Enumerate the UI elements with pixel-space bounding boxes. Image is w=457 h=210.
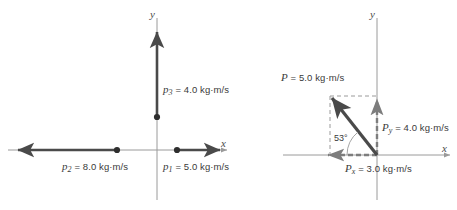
- Py-value: = 4.0 kg·m/s: [392, 122, 448, 133]
- left-y-axis-label: y: [150, 8, 155, 20]
- angle-label: 53°: [334, 133, 348, 143]
- label-p2: p2 = 8.0 kg·m/s: [62, 160, 128, 174]
- left-x-axis-label: x: [221, 137, 226, 149]
- vector-p1: [174, 147, 220, 153]
- Py-symbol: P: [382, 121, 389, 133]
- Px-symbol: P: [345, 162, 352, 174]
- physics-vector-figure: y x p3 = 4.0 kg·m/s p2 = 8.0 kg·m/s p1 =…: [0, 0, 457, 210]
- label-P: P = 5.0 kg·m/s: [281, 71, 344, 83]
- label-p3: p3 = 4.0 kg·m/s: [163, 83, 229, 97]
- vector-P: [332, 98, 377, 155]
- P-symbol: P: [281, 71, 288, 83]
- vector-p2: [18, 147, 120, 153]
- p2-value: = 8.0 kg·m/s: [72, 161, 128, 172]
- angle-arc-53: [347, 132, 358, 155]
- P-value: = 5.0 kg·m/s: [288, 72, 344, 83]
- vector-p3: [154, 32, 160, 120]
- label-p1: p1 = 5.0 kg·m/s: [163, 160, 229, 174]
- label-Py: Py = 4.0 kg·m/s: [382, 121, 449, 135]
- label-Px: Px = 3.0 kg·m/s: [345, 162, 412, 176]
- p1-value: = 5.0 kg·m/s: [173, 161, 229, 172]
- Px-value: = 3.0 kg·m/s: [355, 163, 411, 174]
- diagram-canvas: [0, 0, 457, 210]
- right-y-axis-label: y: [370, 8, 375, 20]
- right-x-axis-label: x: [442, 142, 447, 154]
- p3-value: = 4.0 kg·m/s: [173, 84, 229, 95]
